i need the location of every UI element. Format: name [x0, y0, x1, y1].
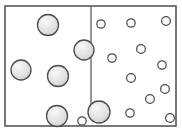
large-particle-highlight	[51, 70, 58, 75]
small-particle-highlight	[127, 110, 130, 112]
small-particle	[97, 20, 105, 28]
small-particle	[166, 114, 175, 123]
large-particle-highlight	[92, 105, 99, 111]
small-particle	[126, 109, 134, 117]
large-particle	[47, 106, 68, 127]
particle-diagram-svg	[0, 0, 182, 133]
small-particle-highlight	[79, 118, 82, 120]
small-particle-highlight	[128, 20, 131, 22]
large-particle-highlight	[78, 44, 85, 49]
small-particle	[78, 117, 86, 125]
large-particle	[48, 66, 69, 87]
small-particle-highlight	[159, 62, 162, 64]
small-particle	[162, 17, 171, 26]
small-particle-highlight	[162, 86, 165, 88]
large-particle	[38, 15, 59, 36]
small-particle	[161, 85, 170, 94]
figure-root	[0, 0, 182, 133]
large-particle-highlight	[41, 19, 48, 24]
small-particle	[158, 61, 166, 69]
large-particle-highlight	[50, 110, 57, 115]
small-particle-highlight	[138, 46, 141, 48]
small-particle	[127, 74, 136, 83]
small-particle	[108, 54, 116, 62]
large-particle-highlight	[15, 64, 22, 69]
small-particle	[127, 19, 135, 27]
small-particle-highlight	[128, 75, 131, 77]
small-particle-highlight	[163, 18, 166, 20]
small-particle	[137, 45, 146, 54]
large-particle	[74, 40, 94, 60]
small-particle-highlight	[147, 96, 150, 98]
small-particle-highlight	[98, 21, 101, 23]
small-particle	[146, 95, 155, 104]
small-particle-highlight	[109, 55, 112, 57]
small-particle-highlight	[167, 115, 170, 117]
large-particle	[88, 101, 110, 123]
large-particle	[11, 60, 31, 80]
